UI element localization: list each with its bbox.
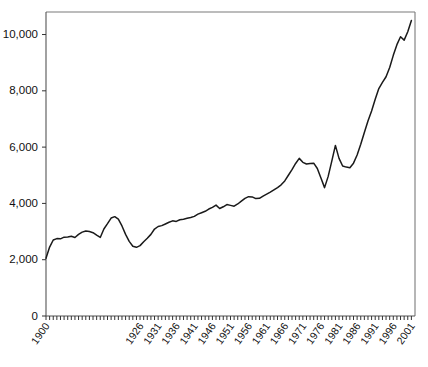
x-tick-label: 1926	[122, 320, 145, 346]
x-tick-label: 1961	[249, 320, 272, 346]
x-tick-label: 1986	[340, 320, 363, 346]
y-axis-ticks: 02,0004,0006,0008,00010,000	[3, 28, 46, 321]
x-tick-label: 2001	[394, 320, 417, 346]
x-tick-label: 1931	[141, 320, 164, 346]
x-tick-label: 1941	[177, 320, 200, 346]
x-tick-label: 1966	[267, 320, 290, 346]
x-tick-label: 1900	[28, 320, 51, 346]
x-tick-label: 1981	[321, 320, 344, 346]
line-chart: 02,0004,0006,0008,00010,000 190019261931…	[0, 0, 428, 367]
x-tick-label: 1971	[285, 320, 308, 346]
y-tick-label: 10,000	[3, 28, 38, 40]
x-tick-label: 1956	[231, 320, 254, 346]
y-tick-label: 4,000	[9, 197, 38, 209]
data-series-group	[46, 20, 411, 258]
x-tick-label: 1951	[213, 320, 236, 346]
y-tick-label: 0	[32, 310, 38, 322]
plot-frame	[46, 12, 415, 316]
y-tick-label: 6,000	[9, 141, 38, 153]
data-line	[46, 20, 411, 258]
x-tick-label: 1976	[303, 320, 326, 346]
x-tick-label: 1996	[376, 320, 399, 346]
chart-canvas: 02,0004,0006,0008,00010,000 190019261931…	[0, 0, 428, 367]
y-tick-label: 8,000	[9, 84, 38, 96]
x-tick-label: 1936	[159, 320, 182, 346]
y-tick-label: 2,000	[9, 253, 38, 265]
x-tick-label: 1946	[195, 320, 218, 346]
x-axis-ticks: 1900192619311936194119461951195619611966…	[28, 316, 417, 346]
x-tick-label: 1991	[358, 320, 381, 346]
